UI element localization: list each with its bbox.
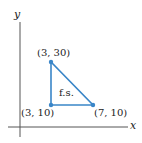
vertex-point [49,60,53,64]
feasible-region-triangle [51,62,93,105]
diagram-canvas [0,0,142,143]
region-label: f.s. [59,87,74,98]
vertex-label: (7, 10) [94,107,127,118]
vertex-label: (3, 30) [37,47,70,58]
y-axis-label: y [14,8,20,21]
vertex-label: (3, 10) [21,107,54,118]
x-axis-label: x [130,119,136,132]
